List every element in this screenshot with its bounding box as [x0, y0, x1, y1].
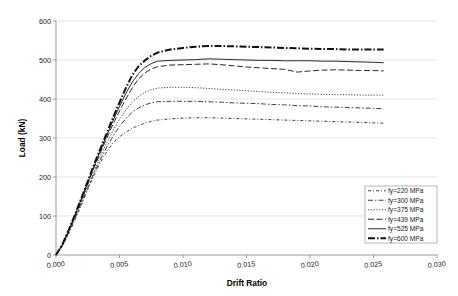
legend: fy=220 MPafy=300 MPafy=375 MPafy=439 MPa…	[365, 186, 437, 243]
legend-label-2: fy=375 MPa	[388, 206, 424, 214]
series-line-4	[56, 59, 384, 255]
series-line-2	[56, 87, 384, 255]
y-tick-label: 500	[39, 56, 51, 65]
x-tick-label: 0.010	[173, 259, 192, 270]
x-tick-label: 0.020	[300, 259, 319, 270]
y-tick-label: 600	[39, 17, 51, 26]
x-tick-label: 0.000	[46, 259, 65, 270]
legend-label-1: fy=300 MPa	[388, 197, 424, 205]
y-axis-tick-labels: 0100200300400500600	[39, 17, 56, 260]
load-vs-drift-ratio-chart: 0100200300400500600 0.0000.0050.0100.015…	[0, 0, 458, 296]
x-axis-title: Drift Ratio	[227, 278, 267, 288]
legend-label-0: fy=220 MPa	[388, 187, 424, 195]
x-axis-tick-labels: 0.0000.0050.0100.0150.0200.0250.030	[46, 255, 446, 270]
chart-canvas: 0100200300400500600 0.0000.0050.0100.015…	[0, 0, 458, 296]
x-tick-label: 0.005	[110, 259, 129, 270]
legend-label-5: fy=600 MPa	[388, 235, 424, 243]
y-tick-label: 300	[39, 134, 51, 143]
data-series	[56, 46, 384, 255]
series-line-3	[56, 64, 384, 255]
legend-label-3: fy=439 MPa	[388, 216, 424, 224]
x-tick-label: 0.030	[427, 259, 446, 270]
y-tick-label: 0	[47, 251, 51, 260]
x-tick-label: 0.015	[237, 259, 256, 270]
y-tick-label: 100	[39, 212, 51, 221]
y-axis-title: Load (kN)	[17, 118, 27, 157]
y-tick-label: 400	[39, 95, 51, 104]
x-tick-label: 0.025	[364, 259, 383, 270]
y-tick-label: 200	[39, 173, 51, 182]
legend-label-4: fy=525 MPa	[388, 225, 424, 233]
series-line-1	[56, 101, 384, 255]
